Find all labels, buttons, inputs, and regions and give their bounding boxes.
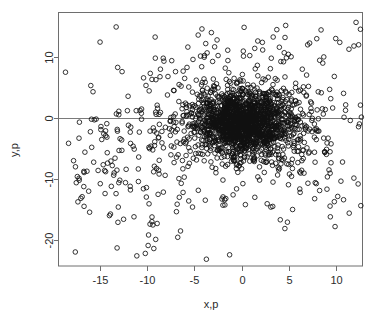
scatter-point bbox=[115, 168, 120, 173]
scatter-point bbox=[105, 121, 110, 126]
scatter-point bbox=[209, 160, 214, 165]
scatter-point bbox=[141, 76, 146, 81]
scatter-point bbox=[347, 211, 352, 216]
y-axis-ticks: 100-10-20 bbox=[43, 51, 59, 248]
scatter-point bbox=[152, 246, 157, 251]
scatter-point bbox=[98, 40, 103, 45]
scatter-point bbox=[356, 182, 361, 187]
scatter-point bbox=[255, 39, 260, 44]
scatter-point bbox=[105, 150, 110, 155]
scatter-point bbox=[340, 160, 345, 165]
scatter-point bbox=[73, 165, 78, 170]
x-axis-ticks: -15-10-50510 bbox=[93, 266, 343, 286]
scatter-point bbox=[194, 78, 199, 83]
scatter-point bbox=[260, 40, 265, 45]
scatter-point bbox=[128, 130, 133, 135]
scatter-point bbox=[305, 146, 310, 151]
scatter-point bbox=[87, 210, 92, 215]
scatter-point bbox=[352, 176, 357, 181]
scatter-point bbox=[354, 20, 359, 25]
scatter-point bbox=[91, 160, 96, 165]
scatter-point bbox=[132, 215, 137, 220]
scatter-point bbox=[242, 25, 247, 30]
scatter-point bbox=[165, 93, 170, 98]
scatter-point bbox=[155, 106, 160, 111]
scatter-point bbox=[96, 168, 101, 173]
scatter-point bbox=[343, 108, 348, 113]
scatter-point bbox=[320, 61, 325, 66]
scatter-point bbox=[179, 181, 184, 186]
scatter-point bbox=[186, 85, 191, 90]
scatter-point bbox=[125, 108, 130, 113]
y-axis-title: y,p bbox=[8, 143, 20, 157]
scatter-point bbox=[148, 71, 153, 76]
scatter-point bbox=[320, 106, 325, 111]
scatter-point bbox=[240, 72, 245, 77]
scatter-point bbox=[271, 35, 276, 40]
scatter-point bbox=[341, 91, 346, 96]
scatter-point bbox=[356, 43, 361, 48]
scatter-point bbox=[137, 130, 142, 135]
scatter-point bbox=[341, 197, 346, 202]
scatter-point bbox=[220, 162, 225, 167]
scatter-point bbox=[321, 55, 326, 60]
scatter-point bbox=[153, 237, 158, 242]
scatter-point bbox=[174, 209, 179, 214]
scatter-point bbox=[253, 195, 258, 200]
scatter-point bbox=[327, 87, 332, 92]
scatter-point bbox=[210, 59, 215, 64]
scatter-point bbox=[120, 69, 125, 74]
scatter-point bbox=[314, 36, 319, 41]
scatter-point bbox=[332, 74, 337, 79]
scatter-point bbox=[136, 179, 141, 184]
scatter-point bbox=[266, 75, 271, 80]
scatter-point bbox=[223, 66, 228, 71]
scatter-point bbox=[325, 187, 330, 192]
scatter-point bbox=[153, 56, 158, 61]
x-axis-title: x,p bbox=[204, 298, 219, 310]
scatter-point bbox=[317, 188, 322, 193]
scatter-point bbox=[103, 169, 108, 174]
scatter-point bbox=[99, 124, 104, 129]
scatter-point bbox=[186, 199, 191, 204]
scatter-point bbox=[337, 40, 342, 45]
scatter-point bbox=[181, 69, 186, 74]
scatter-point bbox=[146, 233, 151, 238]
scatter-point bbox=[260, 48, 265, 53]
scatter-point bbox=[326, 136, 331, 141]
scatter-point bbox=[182, 76, 187, 81]
scatter-point bbox=[173, 69, 178, 74]
scatter-point bbox=[205, 86, 210, 91]
scatter-point bbox=[321, 136, 326, 141]
scatter-point bbox=[306, 181, 311, 186]
scatter-point bbox=[247, 53, 252, 58]
scatter-point bbox=[157, 122, 162, 127]
scatter-point bbox=[275, 27, 280, 32]
scatter-point bbox=[74, 180, 79, 185]
scatter-point bbox=[77, 136, 82, 141]
scatter-point bbox=[283, 23, 288, 28]
scatter-point bbox=[225, 48, 230, 53]
scatter-point bbox=[166, 74, 171, 79]
scatter-point bbox=[161, 146, 166, 151]
scatter-point bbox=[190, 90, 195, 95]
scatter-point bbox=[172, 160, 177, 165]
scatter-point bbox=[275, 173, 280, 178]
y-tick-label: 0 bbox=[43, 115, 55, 121]
scatter-point bbox=[216, 53, 221, 58]
scatter-point bbox=[202, 158, 207, 163]
scatter-point bbox=[239, 166, 244, 171]
scatter-point bbox=[126, 94, 131, 99]
scatter-point bbox=[186, 45, 191, 50]
scatter-point bbox=[83, 150, 88, 155]
y-tick-label: -10 bbox=[43, 172, 55, 188]
scatter-point bbox=[241, 54, 246, 59]
scatter-point bbox=[256, 73, 261, 78]
scatter-point bbox=[91, 89, 96, 94]
scatter-point bbox=[300, 67, 305, 72]
scatter-point bbox=[209, 30, 214, 35]
scatter-point bbox=[161, 56, 166, 61]
scatter-point bbox=[211, 77, 216, 82]
scatter-point bbox=[301, 85, 306, 90]
scatter-point bbox=[113, 156, 118, 161]
